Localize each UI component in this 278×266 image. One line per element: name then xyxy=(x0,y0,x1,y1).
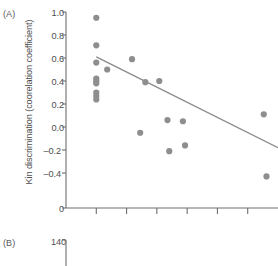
data-point-10 xyxy=(129,56,135,62)
figure-container: (A) Kin discrimination (coorelation coef… xyxy=(0,0,278,266)
panel-a-plot xyxy=(0,0,278,226)
data-point-19 xyxy=(263,173,269,179)
data-point-0 xyxy=(93,15,99,21)
data-point-13 xyxy=(156,78,162,84)
panel-b-plot xyxy=(0,226,278,266)
trendline xyxy=(96,57,278,148)
data-point-1 xyxy=(93,42,99,48)
data-point-9 xyxy=(104,66,110,72)
data-point-11 xyxy=(142,79,148,85)
data-point-8 xyxy=(93,96,99,102)
data-point-2 xyxy=(93,60,99,66)
data-point-12 xyxy=(137,130,143,136)
data-point-15 xyxy=(166,148,172,154)
data-point-14 xyxy=(164,117,170,123)
data-point-16 xyxy=(180,118,186,124)
data-point-5 xyxy=(93,80,99,86)
data-point-17 xyxy=(182,142,188,148)
data-point-18 xyxy=(261,111,267,117)
